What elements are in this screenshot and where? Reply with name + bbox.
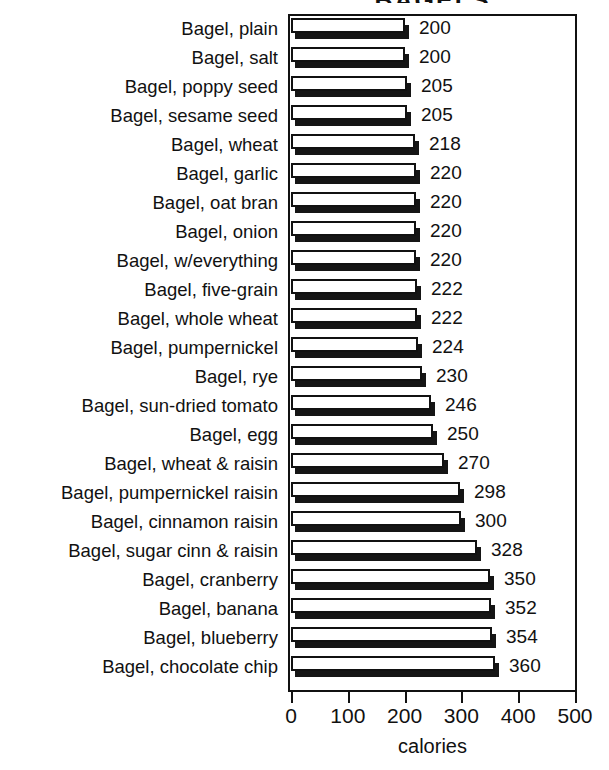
category-label: Bagel, rye (0, 362, 283, 391)
bar (291, 424, 433, 439)
bar-row: 222 (288, 275, 577, 304)
bar-value-label: 220 (430, 217, 462, 246)
category-label: Bagel, sesame seed (0, 101, 283, 130)
category-label: Bagel, whole wheat (0, 304, 283, 333)
bar-value-label: 230 (436, 362, 468, 391)
bar-row: 250 (288, 420, 577, 449)
bar-row: 246 (288, 391, 577, 420)
category-axis-labels: Bagel, plainBagel, saltBagel, poppy seed… (0, 14, 283, 681)
bar (291, 482, 460, 497)
bar-value-label: 246 (445, 391, 477, 420)
bar-value-label: 224 (432, 333, 464, 362)
bar (291, 627, 492, 642)
chart-title: BAGELS (288, 0, 577, 3)
category-label: Bagel, w/everything (0, 246, 283, 275)
bar-value-label: 220 (430, 246, 462, 275)
bar (291, 18, 405, 33)
bagel-calorie-chart: BAGELS Bagel, plainBagel, saltBagel, pop… (0, 0, 609, 770)
category-label: Bagel, banana (0, 594, 283, 623)
bar-row: 328 (288, 536, 577, 565)
category-label: Bagel, plain (0, 14, 283, 43)
category-label: Bagel, onion (0, 217, 283, 246)
x-axis-tick-label: 200 (387, 704, 422, 728)
bar-value-label: 200 (419, 43, 451, 72)
bar (291, 105, 407, 120)
category-label: Bagel, wheat & raisin (0, 449, 283, 478)
x-axis-tick-label: 500 (557, 704, 592, 728)
bar-value-label: 250 (447, 420, 479, 449)
category-label: Bagel, oat bran (0, 188, 283, 217)
bar (291, 337, 418, 352)
x-axis-tick (405, 692, 407, 703)
category-label: Bagel, chocolate chip (0, 652, 283, 681)
bar (291, 453, 444, 468)
bar-series: 2002002052052182202202202202222222242302… (288, 14, 577, 692)
bar-row: 200 (288, 14, 577, 43)
x-axis-tick (575, 692, 577, 703)
category-label: Bagel, five-grain (0, 275, 283, 304)
bar-value-label: 352 (505, 594, 537, 623)
bar (291, 366, 422, 381)
bar-row: 298 (288, 478, 577, 507)
bar (291, 598, 491, 613)
x-axis-tick (348, 692, 350, 703)
category-label: Bagel, pumpernickel (0, 333, 283, 362)
bar-row: 205 (288, 72, 577, 101)
bar-value-label: 328 (491, 536, 523, 565)
x-axis: 0100200300400500 (288, 692, 577, 693)
x-axis-tick-label: 0 (285, 704, 297, 728)
category-label: Bagel, salt (0, 43, 283, 72)
bar-row: 352 (288, 594, 577, 623)
bar-row: 270 (288, 449, 577, 478)
bar-row: 300 (288, 507, 577, 536)
bar (291, 163, 416, 178)
bar-row: 220 (288, 217, 577, 246)
bar-row: 200 (288, 43, 577, 72)
x-axis-tick (291, 692, 293, 703)
bar-value-label: 360 (509, 652, 541, 681)
bar-row: 350 (288, 565, 577, 594)
x-axis-tick (518, 692, 520, 703)
bar-row: 354 (288, 623, 577, 652)
bar (291, 656, 495, 671)
category-label: Bagel, cranberry (0, 565, 283, 594)
bar-value-label: 354 (506, 623, 538, 652)
bar-row: 360 (288, 652, 577, 681)
bar (291, 134, 415, 149)
bar (291, 47, 405, 62)
category-label: Bagel, egg (0, 420, 283, 449)
category-label: Bagel, sugar cinn & raisin (0, 536, 283, 565)
category-label: Bagel, cinnamon raisin (0, 507, 283, 536)
bar (291, 250, 416, 265)
bar-value-label: 222 (431, 275, 463, 304)
x-axis-tick-label: 300 (444, 704, 479, 728)
bar (291, 308, 417, 323)
bar-row: 224 (288, 333, 577, 362)
bar (291, 540, 477, 555)
bar-value-label: 300 (475, 507, 507, 536)
bar-value-label: 222 (431, 304, 463, 333)
bar-row: 220 (288, 159, 577, 188)
bar (291, 221, 416, 236)
bar-row: 205 (288, 101, 577, 130)
bar (291, 511, 461, 526)
bar-row: 222 (288, 304, 577, 333)
bar-value-label: 205 (421, 101, 453, 130)
bar-row: 230 (288, 362, 577, 391)
bar (291, 192, 416, 207)
bar-value-label: 350 (504, 565, 536, 594)
bar-row: 220 (288, 246, 577, 275)
x-axis-tick-label: 400 (501, 704, 536, 728)
x-axis-tick-label: 100 (330, 704, 365, 728)
category-label: Bagel, garlic (0, 159, 283, 188)
bar (291, 395, 431, 410)
category-label: Bagel, pumpernickel raisin (0, 478, 283, 507)
bar-row: 220 (288, 188, 577, 217)
bar-value-label: 200 (419, 14, 451, 43)
x-axis-title: calories (288, 735, 577, 758)
bar-value-label: 220 (430, 159, 462, 188)
bar-row: 218 (288, 130, 577, 159)
bar (291, 569, 490, 584)
category-label: Bagel, wheat (0, 130, 283, 159)
bar-value-label: 270 (458, 449, 490, 478)
